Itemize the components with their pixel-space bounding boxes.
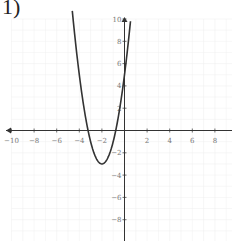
svg-text:8: 8 (117, 38, 121, 46)
svg-text:4: 4 (117, 82, 122, 90)
svg-text:−6: −6 (111, 194, 122, 202)
svg-text:−4: −4 (74, 137, 85, 145)
svg-text:2: 2 (145, 137, 149, 145)
svg-text:−10: −10 (4, 137, 19, 145)
svg-text:−2: −2 (97, 137, 107, 145)
svg-text:6: 6 (190, 137, 195, 145)
svg-text:10: 10 (113, 16, 122, 24)
svg-text:8: 8 (213, 137, 217, 145)
svg-text:6: 6 (117, 60, 122, 68)
svg-text:4: 4 (167, 137, 172, 145)
svg-text:−8: −8 (111, 216, 121, 224)
axes (6, 17, 232, 241)
parabola-graph: −10−8−6−4−22468−8−6−4−2246810 (0, 0, 232, 241)
tick-labels: −10−8−6−4−22468−8−6−4−2246810 (4, 16, 217, 225)
svg-text:−8: −8 (29, 137, 39, 145)
svg-text:−2: −2 (111, 149, 121, 157)
svg-text:−4: −4 (111, 172, 122, 180)
svg-text:−6: −6 (52, 137, 63, 145)
